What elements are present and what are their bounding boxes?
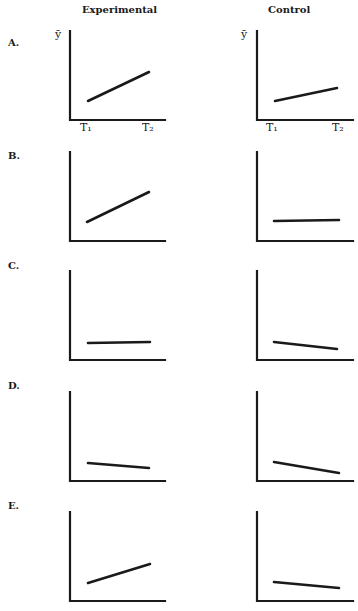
trend-line-d-control bbox=[274, 462, 339, 473]
trend-line-c-experimental bbox=[88, 342, 150, 343]
trend-line-b-control bbox=[274, 220, 339, 221]
trend-line-c-control bbox=[274, 342, 337, 349]
axes-d-experimental bbox=[70, 392, 165, 481]
diagram-canvas bbox=[0, 0, 358, 611]
trend-line-d-experimental bbox=[88, 463, 149, 468]
axes-a-control bbox=[257, 31, 353, 120]
axes-c-experimental bbox=[70, 271, 165, 360]
axes-b-control bbox=[257, 152, 353, 241]
trend-line-b-experimental bbox=[87, 192, 149, 222]
axes-b-experimental bbox=[70, 152, 165, 241]
axes-a-experimental bbox=[70, 31, 165, 120]
trend-line-e-experimental bbox=[88, 564, 150, 583]
trend-line-a-control bbox=[275, 88, 337, 101]
trend-line-e-control bbox=[274, 582, 339, 588]
trend-line-a-experimental bbox=[88, 72, 149, 101]
axes-e-experimental bbox=[70, 512, 165, 601]
